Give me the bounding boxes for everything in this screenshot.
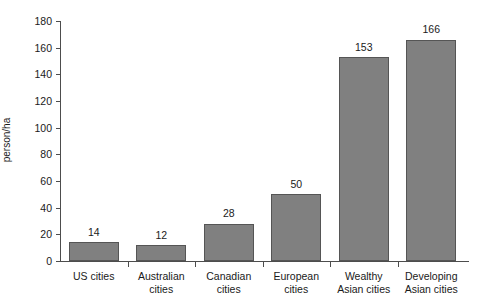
bar [339,57,389,261]
x-axis-tick [263,262,264,267]
bar-value-label: 28 [199,208,259,219]
y-axis-tick-label: 0 [46,256,52,267]
y-axis-tick-label: 180 [34,16,52,27]
bar-chart: person/ha 020406080100120140160180 14122… [0,0,478,304]
bar [204,224,254,261]
y-axis-ticks: 020406080100120140160180 [0,21,61,262]
bar [69,242,119,261]
x-axis-tick [128,262,129,267]
bar-value-label: 12 [131,230,191,241]
x-axis-tick [330,262,331,267]
bar-value-label: 153 [334,42,394,53]
y-axis-tick-label: 60 [40,176,52,187]
y-axis-tick-label: 140 [34,69,52,80]
x-axis-label-line: Asian cities [386,283,476,296]
y-axis-tick-label: 40 [40,202,52,213]
bar-value-label: 166 [401,24,461,35]
x-axis-tick [398,262,399,267]
bar [136,245,186,261]
bar [406,40,456,261]
bar [271,194,321,261]
y-axis-tick-label: 160 [34,42,52,53]
y-axis-tick-label: 100 [34,122,52,133]
x-axis-line [60,261,469,262]
y-axis-tick-label: 20 [40,229,52,240]
y-axis-tick-label: 80 [40,149,52,160]
bar-value-label: 14 [64,227,124,238]
bar-value-label: 50 [266,179,326,190]
x-axis-label-line: Developing [386,270,476,283]
x-axis-category-label: DevelopingAsian cities [386,270,476,295]
y-axis-tick-label: 120 [34,96,52,107]
x-axis-tick [195,262,196,267]
plot-area: 14122850153166 [60,21,465,261]
